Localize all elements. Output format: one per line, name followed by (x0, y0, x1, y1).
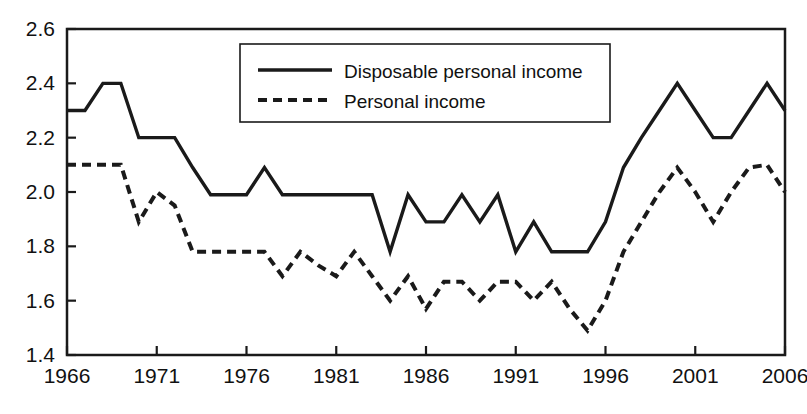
y-axis-tick-labels: 1.41.61.82.02.22.42.6 (26, 17, 56, 366)
y-axis-tick-label: 2.6 (26, 17, 55, 40)
x-axis-tick-label: 1996 (582, 364, 629, 387)
y-axis-tick-label: 2.4 (26, 71, 56, 94)
chart-legend: Disposable personal incomePersonal incom… (240, 44, 610, 122)
legend-label-2: Personal income (344, 91, 486, 112)
x-axis-tick-label: 1971 (133, 364, 180, 387)
x-axis-tick-label: 1981 (313, 364, 360, 387)
x-axis-tick-label: 1991 (492, 364, 539, 387)
x-axis-tick-label: 1986 (403, 364, 450, 387)
x-axis-tick-label: 2001 (672, 364, 719, 387)
y-axis-tick-label: 1.6 (26, 289, 55, 312)
x-axis-tick-label: 1966 (44, 364, 91, 387)
x-axis-tick-label: 1976 (223, 364, 270, 387)
y-axis-tick-label: 1.8 (26, 234, 55, 257)
legend-label-1: Disposable personal income (344, 61, 583, 82)
y-axis-ticks (67, 29, 76, 355)
y-axis-tick-label: 1.4 (26, 343, 56, 366)
y-axis-tick-label: 2.2 (26, 126, 55, 149)
y-axis-tick-label: 2.0 (26, 180, 55, 203)
chart-container: 1.41.61.82.02.22.42.6 196619711976198119… (0, 0, 807, 414)
series-line-2 (67, 165, 785, 331)
x-axis-ticks (67, 346, 785, 355)
x-axis-tick-label: 2006 (762, 364, 807, 387)
line-chart: 1.41.61.82.02.22.42.6 196619711976198119… (0, 0, 807, 414)
x-axis-tick-labels: 196619711976198119861991199620012006 (44, 364, 807, 387)
